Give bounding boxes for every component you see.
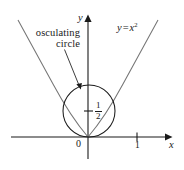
radius-fraction-label: 1 2 [95, 101, 102, 121]
osculating-circle-figure: osculating circle y=x2 y x 0 1 1 2 [0, 0, 184, 170]
annotation-line-2: circle [18, 38, 80, 49]
fraction-numerator: 1 [95, 101, 102, 110]
origin-label: 0 [76, 139, 81, 150]
annotation-line-1: osculating [18, 27, 80, 38]
equation-exponent: 2 [134, 21, 137, 28]
equation-lhs: y [117, 22, 122, 33]
x-axis-label: x [169, 139, 174, 150]
curve-equation-label: y=x2 [117, 22, 138, 33]
osculating-circle-annotation: osculating circle [18, 27, 80, 50]
annotation-leader [65, 50, 82, 90]
figure-canvas [0, 0, 184, 170]
x-tick-label-1: 1 [135, 140, 140, 150]
y-axis-arrowhead [84, 15, 91, 23]
equation-equals: = [122, 22, 130, 33]
y-axis-label: y [78, 12, 83, 23]
fraction-denominator: 2 [95, 112, 102, 121]
leader-line [65, 50, 80, 87]
leader-arrowhead [76, 83, 82, 90]
